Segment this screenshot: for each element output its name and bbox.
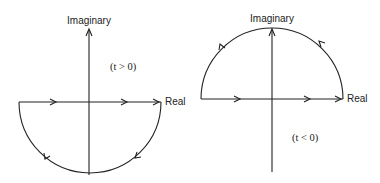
real-label: Real: [347, 93, 368, 104]
lower-semicircle: [19, 102, 161, 173]
arc-arrow-icon: [44, 153, 50, 159]
condition-label: (t > 0): [110, 61, 137, 73]
right-diagram: Imaginary Real (t < 0): [201, 13, 368, 172]
contour-diagrams: Imaginary Real (t > 0) Imaginary Real: [0, 0, 380, 183]
imaginary-label: Imaginary: [250, 13, 294, 24]
left-diagram: Imaginary Real (t > 0): [19, 15, 186, 175]
real-label: Real: [165, 96, 186, 107]
condition-label: (t < 0): [292, 132, 319, 144]
imaginary-label: Imaginary: [67, 15, 111, 26]
